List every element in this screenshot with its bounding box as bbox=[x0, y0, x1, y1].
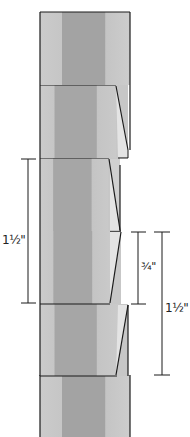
dimension-middle-label: ¾" bbox=[141, 261, 156, 272]
dimension-left bbox=[21, 159, 36, 303]
strip-segment-2 bbox=[40, 85, 128, 158]
strip-segment-4 bbox=[40, 231, 121, 304]
strip-segment-5 bbox=[40, 304, 128, 376]
strip-segment-3 bbox=[40, 158, 120, 231]
strip-segment-6 bbox=[40, 375, 130, 437]
dimension-right-label: 1½" bbox=[165, 302, 188, 314]
folded-strip-diagram bbox=[0, 0, 190, 437]
dimension-left-label: 1½" bbox=[2, 234, 25, 246]
